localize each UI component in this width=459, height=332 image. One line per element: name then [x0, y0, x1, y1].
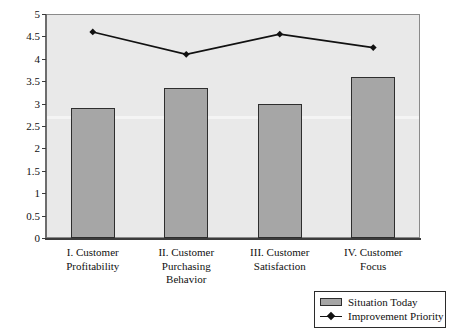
y-tick-mark [42, 238, 46, 239]
bar-3 [258, 104, 302, 238]
legend-item-improvement-priority: Improvement Priority [320, 309, 440, 323]
y-tick-label: 3 [0, 98, 40, 109]
y-tick-mark [42, 59, 46, 60]
y-tick-label: 1 [0, 188, 40, 199]
x-axis-label-4: IV. Customer Focus [327, 246, 421, 273]
y-tick-label: 0 [0, 233, 40, 244]
legend-label-improvement-priority: Improvement Priority [348, 310, 444, 322]
y-tick-label: 2.5 [0, 121, 40, 132]
y-tick-label: 2 [0, 143, 40, 154]
chart-legend: Situation Today Improvement Priority [314, 291, 446, 328]
y-tick-mark [42, 148, 46, 149]
y-tick-label: 1.5 [0, 165, 40, 176]
bar-1 [71, 108, 115, 238]
y-tick-mark [42, 216, 46, 217]
y-tick-label: 0.5 [0, 210, 40, 221]
y-tick-mark [42, 126, 46, 127]
y-tick-label: 4.5 [0, 31, 40, 42]
y-tick-mark [42, 171, 46, 172]
y-tick-label: 3.5 [0, 76, 40, 87]
legend-item-situation-today: Situation Today [320, 295, 440, 309]
x-axis-label-2: II. Customer Purchasing Behavior [140, 246, 234, 287]
line-marker-swatch-icon [320, 312, 342, 321]
y-tick-label: 5 [0, 9, 40, 20]
bar-4 [351, 77, 395, 238]
x-axis-label-1: I. Customer Profitability [46, 246, 140, 273]
y-tick-mark [42, 36, 46, 37]
y-tick-mark [42, 81, 46, 82]
chart-container: 00.511.522.533.544.55 I. Customer Profit… [0, 0, 459, 332]
bar-swatch-icon [320, 298, 342, 306]
x-axis-label-3: III. Customer Satisfaction [233, 246, 327, 273]
x-axis-line [45, 238, 421, 240]
legend-label-situation-today: Situation Today [348, 296, 418, 308]
y-tick-mark [42, 193, 46, 194]
y-tick-mark [42, 14, 46, 15]
y-tick-label: 4 [0, 53, 40, 64]
bar-2 [164, 88, 208, 238]
y-tick-mark [42, 104, 46, 105]
